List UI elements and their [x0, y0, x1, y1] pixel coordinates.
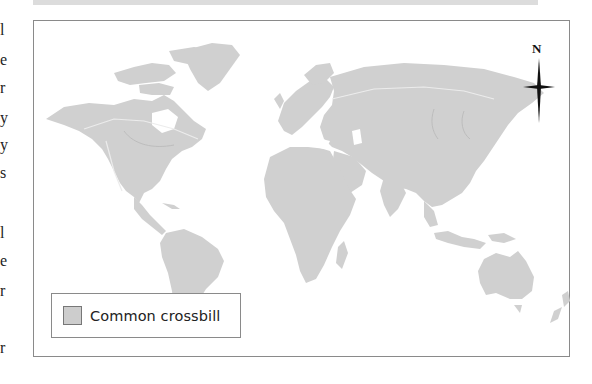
margin-fragment: s	[0, 165, 6, 181]
north-america	[46, 95, 206, 203]
margin-fragment: r	[0, 340, 5, 356]
land-masses	[46, 43, 570, 333]
margin-fragment: y	[0, 137, 8, 153]
margin-fragment: e	[0, 253, 7, 269]
arctic-islands	[114, 63, 176, 85]
margin-fragment: y	[0, 110, 8, 126]
margin-fragment: r	[0, 283, 5, 299]
legend-swatch-common-crossbill	[63, 306, 82, 325]
compass-star-icon	[521, 41, 557, 127]
margin-fragment: e	[0, 52, 7, 68]
top-divider-bar	[33, 0, 538, 5]
new-zealand	[562, 291, 570, 307]
central-america	[134, 197, 166, 235]
margin-fragment: r	[0, 80, 5, 96]
australia	[478, 251, 534, 299]
tasmania	[514, 305, 522, 313]
madagascar	[336, 241, 348, 269]
margin-fragment: l	[0, 225, 4, 241]
north-arrow-compass: N	[521, 41, 557, 127]
scandinavia	[304, 63, 334, 85]
map-frame: N Common crossbill	[33, 20, 570, 357]
margin-fragment: l	[0, 22, 4, 38]
clipped-margin-text: l e r y y s l e r r	[0, 0, 14, 384]
greenland	[182, 43, 240, 91]
indonesia	[434, 231, 486, 249]
british-isles	[274, 93, 284, 109]
map-legend: Common crossbill	[51, 293, 241, 338]
legend-label: Common crossbill	[90, 308, 220, 324]
